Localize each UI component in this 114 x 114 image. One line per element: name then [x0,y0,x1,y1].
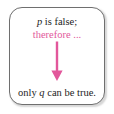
conclusion-text-before: only [18,87,39,98]
conclusion-line: only q can be true. [0,88,114,99]
premise-text: is false; [42,16,77,27]
arrow-head [51,71,62,82]
down-arrow-svg [45,41,69,83]
premise-line: p is false; [0,17,114,28]
down-arrow-icon [45,41,69,83]
conclusion-text-after: can be true. [45,87,96,98]
connector-line: therefore ... [0,30,114,41]
inference-figure: p is false; therefore ... only q can be … [0,0,114,114]
